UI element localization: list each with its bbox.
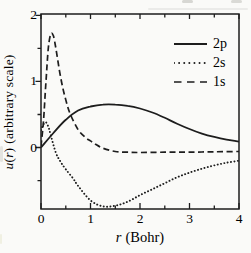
- x-tick-label-4: 4: [230, 211, 248, 227]
- y-axis-units: (arbitrary scale): [1, 54, 16, 143]
- y-axis-label: u(r)(arbitrary scale): [1, 54, 17, 169]
- scan-artifact-smudge: [148, 8, 248, 10]
- curve-2p: [41, 104, 239, 147]
- scan-artifact-cropped-text: [182, 0, 193, 3]
- x-tick-label-0: 0: [32, 211, 50, 227]
- legend-label-2s: 2s: [213, 56, 225, 70]
- x-tick-label-3: 3: [181, 211, 199, 227]
- legend-line-dotted: [174, 60, 207, 66]
- y-tick-label-0: 0: [20, 140, 37, 156]
- legend-line-solid: [174, 41, 207, 47]
- x-axis-label: r(Bohr): [76, 229, 204, 246]
- legend-label-1s: 1s: [213, 75, 225, 89]
- scan-artifact-edge-mark: [0, 234, 2, 244]
- y-axis-argument: r: [1, 152, 16, 157]
- y-axis-paren-open: (: [1, 158, 16, 163]
- figure-page: u(r)(arbitrary scale) r(Bohr) 01234 012 …: [0, 0, 251, 253]
- y-tick-label-1: 1: [20, 73, 37, 89]
- y-axis-variable: u: [1, 163, 16, 170]
- y-axis-paren-close: ): [1, 148, 16, 153]
- x-axis-variable: r: [116, 229, 122, 245]
- legend-label-2p: 2p: [213, 37, 227, 51]
- scan-artifact-edge-mark: [0, 146, 3, 162]
- x-tick-label-2: 2: [131, 211, 149, 227]
- legend: 2p 2s 1s: [174, 34, 227, 91]
- scan-artifact-cropped-text: [231, 0, 242, 3]
- legend-item-1s: 1s: [174, 72, 227, 91]
- legend-item-2p: 2p: [174, 34, 227, 53]
- legend-line-dashed: [174, 79, 207, 85]
- x-tick-label-1: 1: [82, 211, 100, 227]
- x-axis-units: (Bohr): [125, 229, 164, 245]
- legend-item-2s: 2s: [174, 53, 227, 72]
- y-tick-label-2: 2: [20, 7, 37, 23]
